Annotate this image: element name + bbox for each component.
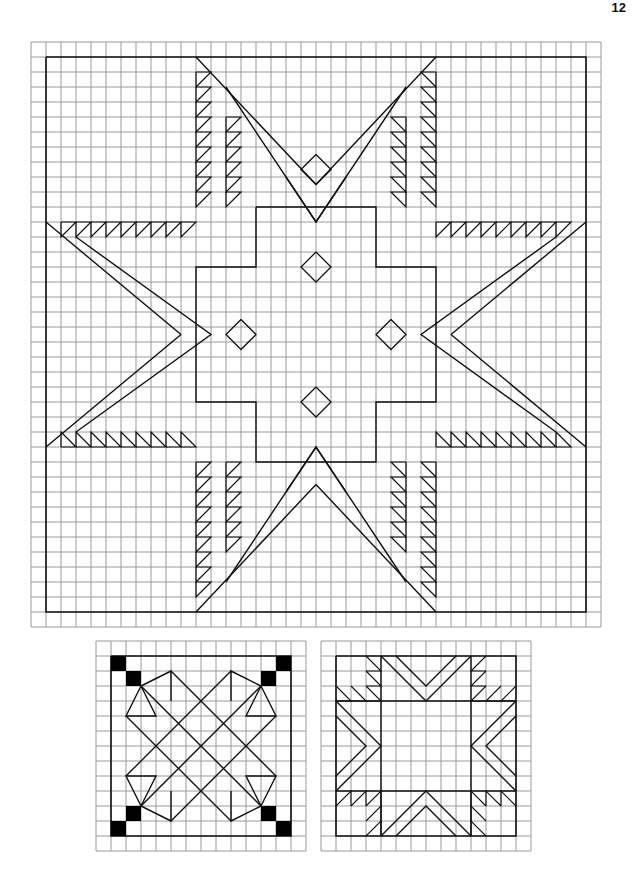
main-star-pattern	[31, 42, 601, 627]
left-block-pattern	[96, 641, 306, 851]
quilt-patterns-drawing	[0, 0, 632, 880]
right-block-pattern	[321, 641, 531, 851]
